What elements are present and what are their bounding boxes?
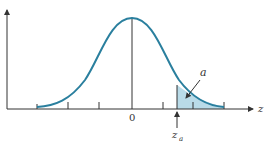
x-axis-label: z xyxy=(257,103,264,114)
critical-value-subscript: a xyxy=(179,135,183,142)
tail-area-label: a xyxy=(200,66,207,79)
normal-curve-diagram: 0 z a z a xyxy=(0,0,264,142)
critical-value-label: z xyxy=(171,129,178,140)
center-tick-label: 0 xyxy=(129,112,135,123)
bell-curve xyxy=(37,18,224,107)
